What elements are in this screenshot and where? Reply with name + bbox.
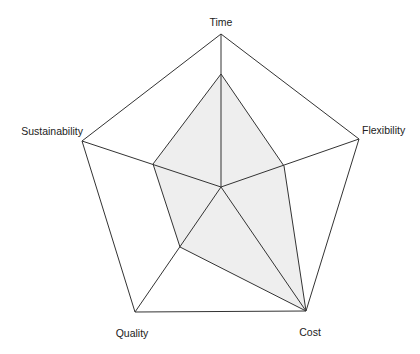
axis-label-time: Time bbox=[210, 16, 233, 28]
axis-label-sustainability: Sustainability bbox=[21, 125, 84, 137]
axis-label-cost: Cost bbox=[299, 326, 321, 338]
axis-lines bbox=[82, 34, 359, 312]
radar-chart: Time Flexibility Cost Quality Sustainabi… bbox=[0, 0, 420, 354]
axis-label-flexibility: Flexibility bbox=[362, 124, 406, 136]
data-area bbox=[153, 74, 306, 311]
axis-label-quality: Quality bbox=[116, 327, 149, 339]
